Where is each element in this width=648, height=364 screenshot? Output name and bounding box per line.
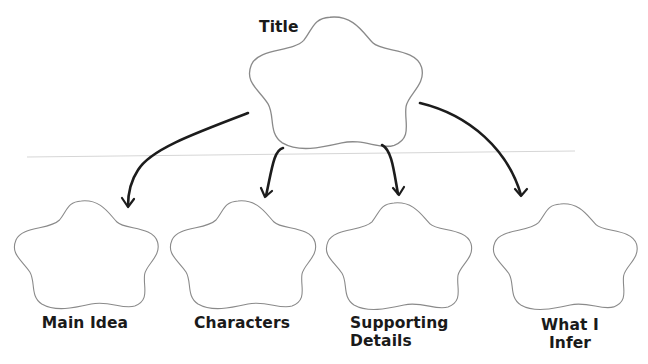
title-label-text: Title [259, 18, 299, 36]
diagram-canvas [0, 0, 648, 364]
title-label: Title [259, 18, 299, 36]
characters-label: Characters [190, 314, 294, 332]
main-idea-label: Main Idea [34, 314, 136, 332]
cloud-supporting-details [326, 203, 471, 310]
supporting-details-label-line1: Supporting [350, 314, 449, 332]
rule-line [27, 151, 575, 157]
what-i-infer-label-line2: Infer [530, 334, 610, 352]
characters-label-line1: Characters [190, 314, 294, 332]
what-i-infer-label-line1: What I [530, 316, 610, 334]
what-i-infer-label: What I Infer [530, 316, 610, 352]
cloud-main-idea [14, 201, 158, 309]
arrow-to-main-idea [122, 113, 248, 207]
cloud-title [249, 17, 422, 149]
cloud-characters [170, 201, 315, 309]
main-idea-label-line1: Main Idea [34, 314, 136, 332]
arrow-to-characters [261, 148, 283, 197]
supporting-details-label: Supporting Details [350, 314, 449, 350]
cloud-what-i-infer [493, 204, 637, 310]
arrow-to-what-i-infer [420, 103, 527, 196]
supporting-details-label-line2: Details [350, 332, 449, 350]
